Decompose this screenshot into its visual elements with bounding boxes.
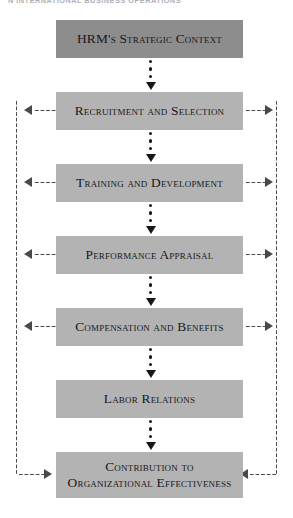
arrow-down-icon xyxy=(146,82,156,90)
feedback-stub-right-n3 xyxy=(245,181,265,184)
feedback-arrowhead-left-n5 xyxy=(24,321,32,331)
connector-dot xyxy=(149,363,152,366)
feedback-rail-left xyxy=(15,100,18,475)
connector-dot xyxy=(149,283,152,286)
connector-dot xyxy=(149,355,152,358)
connector-dot xyxy=(149,211,152,214)
flow-node-label: Compensation and Benefits xyxy=(75,319,224,335)
arrow-down-icon xyxy=(146,226,156,234)
feedback-arrowhead-left-n3 xyxy=(24,177,32,187)
flow-node-recruitment-and-selection[interactable]: Recruitment and Selection xyxy=(56,92,243,130)
feedback-stub-left-n4 xyxy=(34,253,56,256)
feedback-arrowhead-left-n4 xyxy=(24,249,32,259)
flow-node-label: HRM's Strategic Context xyxy=(77,31,222,47)
running-header: N INTERNATIONAL BUSINESS OPERATIONS xyxy=(8,0,285,5)
feedback-arrowhead-right-n5 xyxy=(265,321,273,331)
feedback-rail-right xyxy=(275,100,278,475)
feedback-arrowhead-right-n4 xyxy=(265,249,273,259)
feedback-stub-right-n5 xyxy=(245,325,265,328)
flow-node-strategic-context[interactable]: HRM's Strategic Context xyxy=(56,20,243,58)
flow-node-label: Performance Appraisal xyxy=(86,247,214,263)
feedback-stub-bottom-right xyxy=(249,473,276,476)
connector-n6-n7 xyxy=(147,420,154,450)
feedback-arrowhead-right-n3 xyxy=(265,177,273,187)
feedback-stub-right-n2 xyxy=(245,109,265,112)
feedback-stub-left-n2 xyxy=(34,109,56,112)
flow-node-labor-relations[interactable]: Labor Relations xyxy=(56,380,243,418)
flow-node-training-and-development[interactable]: Training and Development xyxy=(56,164,243,202)
diagram-canvas: N INTERNATIONAL BUSINESS OPERATIONS xyxy=(0,0,293,518)
feedback-arrowhead-bottom-left xyxy=(44,469,52,479)
connector-dot xyxy=(149,276,152,279)
connector-dot xyxy=(149,147,152,150)
flow-node-label: Training and Development xyxy=(76,175,223,191)
connector-dot xyxy=(149,132,152,135)
connector-n3-n4 xyxy=(147,204,154,234)
feedback-stub-left-n3 xyxy=(34,181,56,184)
flow-node-label-line2: Organizational Effectiveness xyxy=(68,475,232,491)
connector-dot xyxy=(149,291,152,294)
feedback-stub-right-n4 xyxy=(245,253,265,256)
connector-dot xyxy=(149,139,152,142)
feedback-arrowhead-left-n2 xyxy=(24,105,32,115)
connector-dot xyxy=(149,75,152,78)
feedback-stub-bottom-left xyxy=(18,473,44,476)
connector-n5-n6 xyxy=(147,348,154,378)
connector-n4-n5 xyxy=(147,276,154,306)
connector-dot xyxy=(149,435,152,438)
arrow-down-icon xyxy=(146,298,156,306)
feedback-stub-left-n5 xyxy=(34,325,56,328)
flow-node-label: Recruitment and Selection xyxy=(75,103,225,119)
connector-dot xyxy=(149,420,152,423)
arrow-down-icon xyxy=(146,442,156,450)
flow-node-compensation-and-benefits[interactable]: Compensation and Benefits xyxy=(56,308,243,346)
connector-dot xyxy=(149,60,152,63)
connector-dot xyxy=(149,348,152,351)
flow-node-label: Labor Relations xyxy=(104,391,195,407)
feedback-arrowhead-right-n2 xyxy=(265,105,273,115)
arrow-down-icon xyxy=(146,370,156,378)
connector-n2-n3 xyxy=(147,132,154,162)
connector-dot xyxy=(149,219,152,222)
flow-node-label-line1: Contribution to xyxy=(105,459,194,475)
arrow-down-icon xyxy=(146,154,156,162)
connector-n1-n2 xyxy=(147,60,154,90)
connector-dot xyxy=(149,204,152,207)
flow-node-performance-appraisal[interactable]: Performance Appraisal xyxy=(56,236,243,274)
connector-dot xyxy=(149,67,152,70)
connector-dot xyxy=(149,427,152,430)
flow-node-contribution-to-organizational-effectiveness[interactable]: Contribution to Organizational Effective… xyxy=(56,452,243,498)
